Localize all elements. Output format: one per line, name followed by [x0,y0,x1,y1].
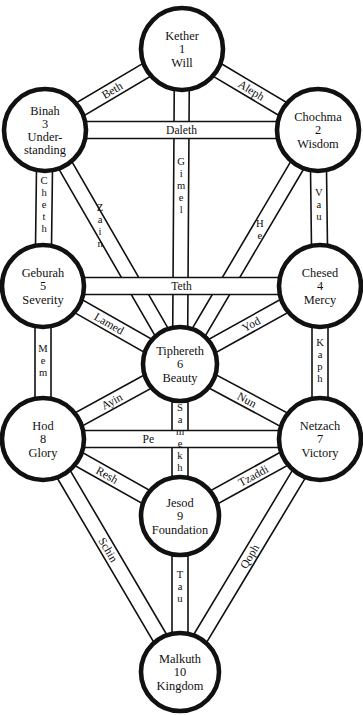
path-label-kaph-char-1: a [318,349,323,360]
sephirah-binah-line-2: Under- [28,130,63,144]
path-label-cheth-char-3: t [43,211,46,222]
sephirah-netzach-line-0: Netzach [300,419,341,433]
path-label-gimel-char-1: i [180,168,183,179]
path-label-samekh-char-2: m [176,426,185,437]
sephirah-jesod-line-0: Jesod [166,496,194,510]
path-label-vau-char-0: V [315,187,323,198]
path-label-mem-char-2: m [39,367,48,378]
sephirah-netzach-line-2: Victory [301,446,339,460]
sephirah-hod-line-1: 8 [40,432,46,446]
sephirah-kether-line-1: 1 [179,42,185,56]
path-label-samekh-char-0: S [177,402,183,413]
sephirah-tiphereth-line-2: Beauty [162,371,198,385]
path-label-he-char-1: e [257,230,262,241]
sephirah-malkuth-line-0: Malkuth [159,652,202,666]
path-label-samekh-char-3: e [178,438,183,449]
sephirah-chochma-line-2: Wisdom [297,137,339,151]
sephirah-tiphereth-line-1: 6 [177,357,183,371]
sephirah-tiphereth-line-0: Tiphereth [156,344,205,358]
path-label-tau-char-2: u [177,593,183,604]
tree-of-life-diagram: Kether1WillBinah3Under-standingChochma2W… [0,0,363,715]
sephirah-chochma-line-1: 2 [315,123,321,137]
path-label-pe: Pe [143,433,155,446]
path-label-kaph-char-0: K [316,337,324,348]
path-label-teth: Teth [171,280,192,293]
path-label-vau-char-2: u [316,211,322,222]
path-label-mem-char-0: M [38,343,48,354]
sephirah-hod-line-2: Glory [29,446,59,460]
sephirah-binah-line-0: Binah [30,104,60,118]
path-label-vau-char-1: a [317,199,322,210]
path-label-daleth: Daleth [166,124,197,137]
path-label-samekh-char-4: k [177,450,183,461]
sephirah-kether-line-2: Will [171,56,193,70]
tree-of-life-svg: Kether1WillBinah3Under-standingChochma2W… [0,0,363,715]
sephirah-chesed-line-1: 4 [317,279,323,293]
sephirah-binah-line-1: 3 [42,117,48,131]
path-label-tau-char-0: T [177,569,184,580]
path-label-kaph-char-3: h [317,373,323,384]
path-label-zain-char-2: i [99,226,102,237]
sephirah-jesod-line-2: Foundation [152,523,208,537]
sephirah-kether-line-0: Kether [165,29,200,43]
sephirah-chesed-line-0: Chesed [302,266,339,280]
path-label-gimel-char-0: G [177,156,185,167]
sephirah-chesed-line-2: Mercy [304,293,337,307]
path-label-zain-char-0: Z [97,202,103,213]
sephirah-malkuth-line-2: Kingdom [157,679,204,693]
sephirah-binah-line-3: standing [24,143,66,157]
path-label-zain-char-3: n [97,238,103,249]
path-label-cheth-char-4: h [41,223,47,234]
path-label-cheth-char-1: h [41,187,47,198]
path-label-cheth-char-0: C [41,175,48,186]
path-label-samekh-char-1: a [178,414,183,425]
path-label-gimel-char-4: l [180,204,183,215]
path-label-kaph-char-2: p [317,361,322,372]
sephirah-malkuth-line-1: 10 [174,665,186,679]
path-label-samekh-char-5: h [177,462,183,473]
sephirah-geburah-line-1: 5 [40,279,46,293]
path-label-mem-char-1: e [41,355,46,366]
sephirah-hod-line-0: Hod [32,419,54,433]
path-label-tau-char-1: a [178,581,183,592]
sephirah-geburah-line-2: Severity [22,293,64,307]
sephirah-jesod-line-1: 9 [177,509,183,523]
sephirah-chochma-line-0: Chochma [294,110,342,124]
path-label-gimel-char-2: m [177,180,186,191]
sephirah-netzach-line-1: 7 [317,432,323,446]
path-label-zain-char-1: a [98,214,103,225]
path-label-gimel-char-3: e [179,192,184,203]
sephirah-geburah-line-0: Geburah [22,266,65,280]
path-label-cheth-char-2: e [42,199,47,210]
path-label-he-char-0: H [256,218,264,229]
